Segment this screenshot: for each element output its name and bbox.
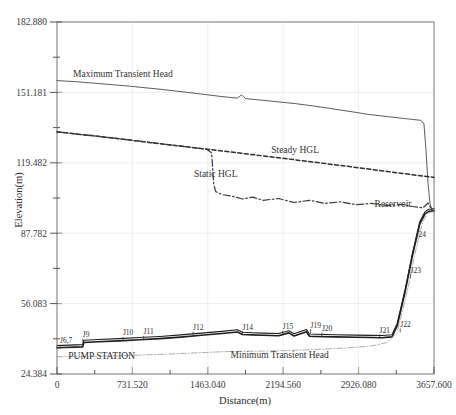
node-label: J22: [400, 320, 411, 329]
y-axis-title: Elevation(m): [13, 172, 25, 228]
x-tick-label: 1463.040: [190, 380, 226, 390]
data-series-group: [57, 81, 434, 357]
node-label: J15: [283, 322, 294, 331]
transient-analysis-chart: 24.38456.08387.782119.482151.181182.880 …: [0, 0, 456, 415]
annotation-label: PUMP STATION: [68, 351, 135, 361]
node-label: J9: [83, 330, 90, 339]
y-tick-label: 87.782: [21, 229, 47, 239]
series-label: Minimum Transient Head: [231, 350, 329, 360]
series-label: Static HGL: [194, 169, 238, 179]
chart-canvas: 24.38456.08387.782119.482151.181182.880 …: [0, 0, 456, 415]
series-label: Reservoir: [375, 199, 413, 209]
node-label: J20: [322, 324, 333, 333]
node-label: J24: [416, 230, 427, 239]
series-label: Steady HGL: [271, 145, 319, 155]
x-tick-label: 731.520: [117, 380, 148, 390]
y-tick-label: 151.181: [16, 88, 47, 98]
node-label: J14: [243, 323, 254, 332]
node-label: J10: [123, 328, 134, 337]
node-label: J12: [193, 323, 204, 332]
annotations: PUMP STATION: [68, 351, 135, 361]
x-tick-label: 2926.080: [341, 380, 377, 390]
x-tick-label: 2194.560: [265, 380, 301, 390]
x-axis-title: Distance(m): [219, 395, 271, 407]
x-axis: 0731.5201463.0402194.5602926.0803657.600: [55, 367, 452, 390]
node-label: J6,7: [60, 336, 73, 345]
y-tick-label: 119.482: [16, 158, 47, 168]
y-tick-label: 24.384: [21, 369, 47, 379]
node-label: J11: [144, 327, 154, 336]
x-tick-label: 0: [55, 380, 60, 390]
y-tick-label: 182.880: [16, 17, 47, 27]
node-label: J23: [411, 266, 422, 275]
series-path: [57, 81, 434, 212]
series-label: Maximum Transient Head: [73, 69, 173, 79]
y-tick-label: 56.083: [21, 299, 47, 309]
node-label: J21: [380, 326, 391, 335]
node-label: J19: [311, 321, 322, 330]
node-labels: J6,7J9J10J11J12J14J15J19J20J21J22J23J24: [60, 230, 426, 348]
x-tick-label: 3657.600: [416, 380, 452, 390]
